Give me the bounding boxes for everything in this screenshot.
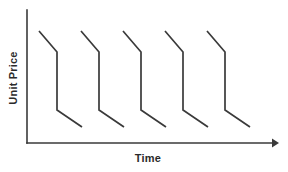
chart-background bbox=[0, 0, 288, 172]
y-axis-label: Unit Price bbox=[7, 51, 19, 104]
chart-container: Unit Price Time bbox=[0, 0, 288, 172]
x-axis-label: Time bbox=[135, 152, 161, 164]
sawtooth-line-chart: Unit Price Time bbox=[0, 0, 288, 172]
